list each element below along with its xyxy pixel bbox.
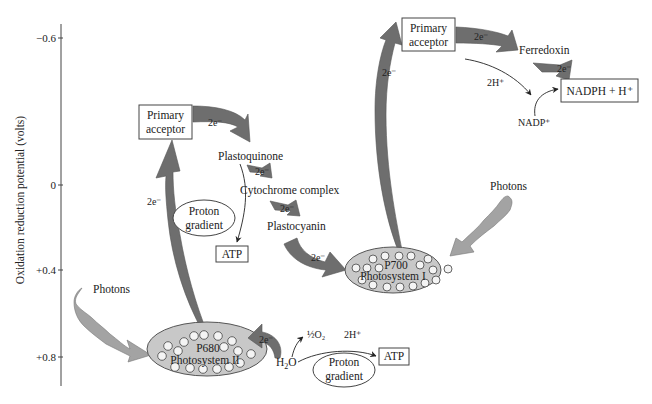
svg-text:2e⁻: 2e⁻: [259, 334, 273, 345]
water-label: H2O: [276, 356, 297, 371]
svg-text:2e⁻: 2e⁻: [557, 63, 571, 74]
nadp-label: NADP⁺: [518, 117, 550, 128]
svg-text:Photosystem I: Photosystem I: [360, 270, 426, 283]
psii-primary-acceptor-box: Primary acceptor: [139, 105, 192, 139]
svg-text:Photosystem II: Photosystem II: [170, 354, 239, 367]
svg-text:Proton: Proton: [189, 205, 220, 217]
protons-upper-label: 2H⁺: [487, 77, 504, 88]
svg-text:2e⁻: 2e⁻: [208, 117, 222, 128]
tick-label: 0: [51, 179, 57, 191]
ferredoxin-label: Ferredoxin: [519, 44, 570, 56]
svg-text:2e⁻: 2e⁻: [255, 166, 269, 177]
svg-text:P680: P680: [196, 342, 220, 354]
nadp-to-nadph-arrow: [535, 89, 558, 116]
svg-text:Primary: Primary: [147, 109, 184, 122]
svg-text:2e⁻: 2e⁻: [311, 252, 325, 263]
tick-label: +0.8: [36, 351, 56, 363]
psii-e-label: 2e⁻: [147, 196, 161, 207]
svg-text:ATP: ATP: [222, 248, 242, 260]
photosystem-ii: P680 Photosystem II: [147, 322, 267, 376]
photosystem-i: P700 Photosystem I: [345, 247, 452, 293]
plastocyanin-label: Plastocyanin: [267, 220, 326, 233]
photons-psii-arrow: [74, 288, 151, 362]
oxygen-label: ½O₂: [307, 329, 325, 340]
water-to-oxygen-arrow: [292, 337, 303, 357]
cytochrome-label: Cytochrome complex: [240, 184, 340, 197]
svg-text:acceptor: acceptor: [409, 36, 448, 49]
svg-text:gradient: gradient: [325, 370, 363, 383]
psi-primary-acceptor-box: Primary acceptor: [402, 18, 455, 51]
photons-psii-label: Photons: [93, 283, 131, 295]
atp-lower-box: ATP: [379, 348, 409, 365]
svg-text:2e⁻: 2e⁻: [382, 67, 396, 78]
svg-text:gradient: gradient: [185, 219, 223, 232]
photons-psi-arrow: [450, 196, 512, 256]
svg-text:Proton: Proton: [329, 356, 360, 368]
svg-text:ATP: ATP: [384, 350, 404, 362]
plastoquinone-label: Plastoquinone: [218, 150, 283, 163]
psi-electron-arrow: [375, 22, 402, 250]
tick-label: −0.6: [36, 32, 56, 44]
tick-label: +0.4: [36, 264, 56, 276]
atp-upper-box: ATP: [216, 246, 248, 262]
protons-lower-label: 2H⁺: [344, 329, 361, 340]
z-scheme-diagram: −0.6 0 +0.4 +0.8 Oxidation reduction pot…: [0, 0, 652, 404]
svg-text:2e⁻: 2e⁻: [280, 203, 294, 214]
proton-gradient-upper: Proton gradient: [173, 200, 235, 236]
y-axis: −0.6 0 +0.4 +0.8 Oxidation reduction pot…: [14, 24, 63, 386]
svg-text:Primary: Primary: [410, 22, 447, 35]
photons-psi-label: Photons: [490, 180, 528, 192]
svg-text:2e⁻: 2e⁻: [474, 31, 488, 42]
axis-label: Oxidation reduction potential (volts): [14, 116, 27, 284]
svg-text:acceptor: acceptor: [146, 123, 185, 136]
proton-gradient-lower: Proton gradient: [313, 353, 375, 387]
nadph-box: NADPH + H⁺: [561, 79, 638, 102]
svg-text:NADPH + H⁺: NADPH + H⁺: [566, 85, 632, 97]
pq-to-atp-arrow: [237, 164, 246, 242]
